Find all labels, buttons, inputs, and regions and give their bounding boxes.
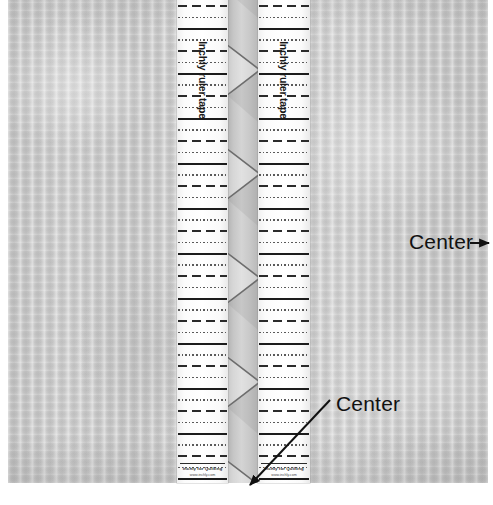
ruler-mark-dot (178, 174, 227, 176)
ruler-mark-dot (259, 399, 309, 401)
ruler-mark-solid (178, 433, 227, 435)
ruler-mark-solid (259, 343, 309, 345)
center-label-bottom: Center (336, 392, 400, 416)
ruler-mark-dash (259, 455, 309, 457)
screenshot-canvas: Inchly ruler tape Inchly for Quilting ww… (0, 0, 493, 505)
ruler-tape-left-footer: Inchly for Quilting www.inchly.com (177, 466, 228, 477)
ruler-mark-dash (178, 275, 227, 277)
ruler-mark-dash (178, 365, 227, 367)
ruler-mark-solid (259, 433, 309, 435)
ruler-mark-dot (178, 422, 227, 424)
ruler-mark-dot (259, 174, 309, 176)
ruler-tape-left-label: Inchly ruler tape (197, 41, 209, 119)
ruler-mark-dash (178, 320, 227, 322)
ruler-mark-dot (178, 17, 227, 19)
ruler-mark-dot (259, 287, 309, 289)
center-label-right: Center (409, 230, 473, 254)
ruler-mark-dot (259, 377, 309, 379)
ruler-mark-dash (259, 140, 309, 142)
chevron-facet (228, 0, 258, 18)
ruler-mark-solid (178, 343, 227, 345)
footer-rule-right (261, 463, 307, 464)
ruler-mark-dash (259, 320, 309, 322)
ruler-mark-solid (259, 478, 309, 480)
ruler-mark-dot (178, 152, 227, 154)
ruler-mark-solid (259, 163, 309, 165)
ruler-mark-dash (259, 230, 309, 232)
ruler-mark-dot (259, 197, 309, 199)
ruler-mark-solid (178, 208, 227, 210)
ruler-mark-solid (259, 208, 309, 210)
ruler-mark-solid (178, 298, 227, 300)
ruler-mark-solid (178, 388, 227, 390)
ruler-mark-dot (178, 264, 227, 266)
ruler-mark-dash (178, 455, 227, 457)
ruler-tape-right[interactable]: Inchly ruler tape Inchly for Quilting ww… (258, 0, 310, 483)
ruler-mark-solid (178, 253, 227, 255)
ruler-mark-dot (259, 152, 309, 154)
ruler-mark-dash (259, 185, 309, 187)
ruler-mark-dot (259, 332, 309, 334)
ruler-mark-dot (178, 309, 227, 311)
ruler-mark-dash (259, 5, 309, 7)
ruler-mark-solid (259, 388, 309, 390)
seam-chevron-folds (228, 0, 258, 483)
ruler-mark-dash (178, 230, 227, 232)
ruler-mark-dot (259, 309, 309, 311)
ruler-tape-left[interactable]: Inchly ruler tape Inchly for Quilting ww… (177, 0, 228, 483)
ruler-mark-dot (259, 242, 309, 244)
ruler-mark-dash (178, 185, 227, 187)
footer-rule-left (180, 463, 225, 464)
chevron-facet (228, 460, 258, 483)
ruler-mark-dash (178, 5, 227, 7)
ruler-mark-dash (259, 365, 309, 367)
ruler-mark-dot (178, 354, 227, 356)
chevron-fold-lines (228, 0, 258, 483)
ruler-mark-dot (178, 242, 227, 244)
ruler-mark-solid (259, 253, 309, 255)
ruler-mark-solid (178, 478, 227, 480)
ruler-mark-dot (178, 377, 227, 379)
url-text-right: www.inchly.com (258, 473, 310, 477)
ruler-mark-dot (259, 129, 309, 131)
ruler-tape-right-label: Inchly ruler tape (278, 41, 290, 119)
brand-text-right: Inchly for Quilting (258, 466, 310, 472)
ruler-mark-dot (259, 264, 309, 266)
url-text-left: www.inchly.com (177, 473, 228, 477)
ruler-mark-dot (178, 332, 227, 334)
ruler-mark-dot (259, 17, 309, 19)
ruler-mark-dash (178, 140, 227, 142)
ruler-mark-dot (178, 444, 227, 446)
ruler-mark-solid (178, 163, 227, 165)
ruler-mark-dot (178, 399, 227, 401)
ruler-mark-dot (178, 287, 227, 289)
ruler-mark-dot (178, 197, 227, 199)
center-seam-channel (228, 0, 258, 483)
ruler-mark-solid (259, 28, 309, 30)
ruler-mark-dash (259, 410, 309, 412)
ruler-mark-dot (259, 422, 309, 424)
ruler-mark-dot (178, 129, 227, 131)
brand-text-left: Inchly for Quilting (177, 466, 228, 472)
ruler-tape-right-footer: Inchly for Quilting www.inchly.com (258, 466, 310, 477)
ruler-mark-dash (178, 410, 227, 412)
ruler-mark-dot (259, 354, 309, 356)
ruler-mark-dash (259, 275, 309, 277)
ruler-mark-solid (259, 298, 309, 300)
ruler-mark-dot (259, 219, 309, 221)
ruler-mark-dot (259, 444, 309, 446)
ruler-mark-dot (178, 219, 227, 221)
ruler-mark-solid (178, 28, 227, 30)
